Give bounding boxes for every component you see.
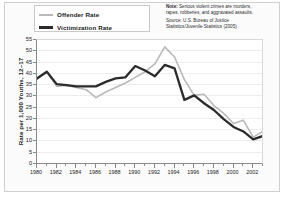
y-tick-label: 10 (16, 137, 32, 143)
y-axis-title: Rate per 1,000 Youths, 12–17 (17, 54, 24, 150)
x-tick-label: 1990 (124, 169, 144, 175)
y-tick-mark (33, 50, 36, 51)
x-tick-mark (262, 164, 263, 166)
x-tick-label: 1986 (85, 169, 105, 175)
legend-label-offender: Offender Rate (57, 9, 99, 20)
x-tick-mark (183, 164, 184, 166)
x-tick-mark (56, 164, 57, 168)
y-tick-label: 35 (16, 81, 32, 87)
x-tick-label: 1996 (183, 169, 203, 175)
x-tick-mark (203, 164, 204, 166)
series-lines (37, 39, 263, 163)
y-tick-mark (33, 129, 36, 130)
y-tick-mark (33, 107, 36, 108)
y-tick-mark (33, 62, 36, 63)
x-tick-mark (174, 164, 175, 168)
note-bold-prefix: Note: (166, 4, 178, 9)
y-tick-mark (33, 95, 36, 96)
y-tick-label: 50 (16, 47, 32, 53)
chart-note: Note: Serious violent crimes are murders… (166, 4, 278, 30)
x-tick-mark (193, 164, 194, 168)
legend-swatch-offender-icon (39, 14, 53, 16)
y-tick-mark (33, 73, 36, 74)
series-line-victimization-rate (37, 65, 263, 139)
y-tick-mark (33, 140, 36, 141)
x-tick-mark (95, 164, 96, 168)
note-line-4: Statistics/Juvenile Statistics (2005) (166, 24, 278, 30)
x-tick-mark (134, 164, 135, 168)
chart-figure: Offender Rate Victimization Rate Note: S… (0, 0, 286, 197)
x-tick-mark (105, 164, 106, 166)
plot-area (36, 39, 263, 164)
x-tick-label: 2002 (242, 169, 262, 175)
legend-label-victimization: Victimization Rate (57, 22, 112, 33)
note-line-2: rapes, robberies, and aggravated assault… (166, 10, 278, 16)
x-tick-mark (115, 164, 116, 168)
y-tick-label: 45 (16, 59, 32, 65)
x-tick-mark (36, 164, 37, 168)
x-tick-mark (65, 164, 66, 166)
chart-legend: Offender Rate Victimization Rate (34, 5, 150, 32)
x-tick-mark (252, 164, 253, 168)
x-tick-mark (223, 164, 224, 166)
y-tick-label: 0 (16, 160, 32, 166)
y-tick-mark (33, 84, 36, 85)
x-tick-label: 1984 (65, 169, 85, 175)
series-svg (37, 39, 263, 163)
x-tick-mark (46, 164, 47, 166)
x-tick-label: 1980 (26, 169, 46, 175)
x-tick-mark (124, 164, 125, 166)
x-tick-label: 2000 (223, 169, 243, 175)
x-tick-label: 1998 (203, 169, 223, 175)
y-tick-label: 20 (16, 115, 32, 121)
y-tick-label: 15 (16, 126, 32, 132)
y-tick-label: 40 (16, 70, 32, 76)
y-tick-mark (33, 152, 36, 153)
x-tick-label: 1982 (46, 169, 66, 175)
y-tick-label: 25 (16, 104, 32, 110)
x-tick-mark (75, 164, 76, 168)
y-tick-label: 5 (16, 149, 32, 155)
y-tick-label: 30 (16, 92, 32, 98)
x-tick-mark (154, 164, 155, 168)
x-tick-mark (144, 164, 145, 166)
y-tick-label: 55 (16, 36, 32, 42)
legend-swatch-victimization-icon (39, 26, 53, 29)
note-line-1-text: Serious violent crimes are murders, (178, 4, 252, 9)
x-tick-mark (164, 164, 165, 166)
x-tick-mark (85, 164, 86, 166)
x-tick-mark (213, 164, 214, 168)
y-tick-mark (33, 39, 36, 40)
x-tick-mark (242, 164, 243, 166)
y-tick-mark (33, 118, 36, 119)
x-tick-label: 1994 (164, 169, 184, 175)
x-tick-label: 1992 (144, 169, 164, 175)
x-tick-label: 1988 (105, 169, 125, 175)
legend-item-victimization: Victimization Rate (39, 22, 149, 33)
x-tick-mark (233, 164, 234, 168)
legend-item-offender: Offender Rate (39, 9, 149, 20)
